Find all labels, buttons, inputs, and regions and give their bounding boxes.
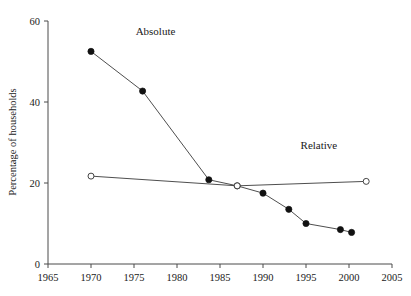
- data-point-marker: [348, 229, 354, 235]
- y-tick-label: 60: [30, 16, 41, 27]
- chart-container: 0204060 19651970197519801985199019952000…: [0, 0, 411, 296]
- y-axis-title: Percentage of households: [7, 88, 18, 195]
- y-axis: 0204060: [30, 16, 49, 270]
- data-point-marker: [260, 190, 266, 196]
- data-point-marker: [234, 183, 240, 189]
- data-point-marker: [140, 88, 146, 94]
- series-relative: [88, 173, 369, 189]
- data-point-marker: [206, 177, 212, 183]
- series-annotations: AbsoluteRelative: [136, 25, 338, 150]
- series-label-relative: Relative: [301, 139, 338, 151]
- data-point-marker: [303, 220, 309, 226]
- x-tick-label: 2005: [382, 272, 403, 283]
- y-tick-label: 20: [30, 178, 41, 189]
- series-label-absolute: Absolute: [136, 25, 176, 37]
- data-point-marker: [88, 173, 94, 179]
- x-tick-label: 1970: [81, 272, 102, 283]
- x-axis: 196519701975198019851990199520002005: [38, 264, 403, 283]
- data-point-marker: [363, 178, 369, 184]
- x-axis-ticks: 196519701975198019851990199520002005: [38, 264, 403, 283]
- x-tick-label: 1980: [167, 272, 188, 283]
- y-tick-label: 40: [30, 97, 41, 108]
- data-point-marker: [286, 206, 292, 212]
- data-point-marker: [88, 48, 94, 54]
- y-axis-ticks: 0204060: [30, 16, 49, 270]
- x-tick-label: 1990: [253, 272, 274, 283]
- x-tick-label: 1965: [38, 272, 59, 283]
- data-point-marker: [337, 226, 343, 232]
- x-tick-label: 1995: [296, 272, 317, 283]
- y-tick-label: 0: [35, 259, 40, 270]
- line-chart: 0204060 19651970197519801985199019952000…: [0, 0, 411, 296]
- x-tick-label: 2000: [339, 272, 360, 283]
- x-tick-label: 1975: [124, 272, 145, 283]
- x-tick-label: 1985: [210, 272, 231, 283]
